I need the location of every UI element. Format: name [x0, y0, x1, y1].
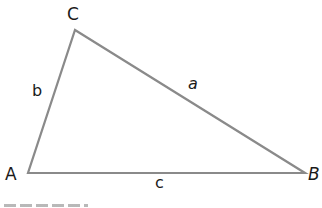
side-label-b: b — [32, 83, 42, 99]
triangle-abc — [28, 30, 305, 173]
vertex-label-a: A — [5, 166, 17, 183]
side-label-a: a — [188, 76, 198, 92]
cutoff-caption-fragment — [4, 203, 88, 208]
vertex-label-c: C — [67, 6, 79, 23]
side-label-c: c — [155, 175, 164, 191]
vertex-label-b: B — [308, 166, 320, 183]
